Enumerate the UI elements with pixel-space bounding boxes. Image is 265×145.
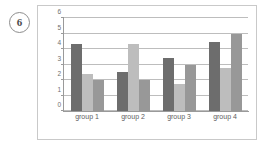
chart-canvas: 0123456 group 1group 2group 3group 4	[38, 6, 256, 139]
y-tick-label: 3	[57, 54, 61, 61]
y-tick-label: 2	[57, 70, 61, 77]
bar	[117, 72, 128, 111]
x-axis-label: group 4	[204, 113, 246, 120]
chart-frame: 0123456 group 1group 2group 3group 4	[37, 5, 257, 140]
plot-area: 0123456	[64, 18, 248, 111]
y-tick-label: 6	[57, 8, 61, 15]
y-tick-label: 0	[57, 101, 61, 108]
bar	[82, 74, 93, 111]
bar	[231, 34, 242, 112]
bar-series-layer	[64, 18, 248, 111]
x-axis-label: group 1	[66, 113, 108, 120]
bar	[174, 84, 185, 111]
figure-page: 6 0123456 group 1group 2group 3group 4	[0, 0, 265, 145]
bar-group	[117, 18, 150, 111]
x-axis-label: group 3	[158, 113, 200, 120]
bar	[93, 80, 104, 111]
bar	[71, 44, 82, 111]
y-tick-label: 4	[57, 39, 61, 46]
x-axis-line	[63, 111, 249, 112]
bar-group	[209, 18, 242, 111]
bar	[209, 42, 220, 111]
bar-group	[163, 18, 196, 111]
bar	[220, 68, 231, 111]
bar	[128, 44, 139, 111]
bar-group	[71, 18, 104, 111]
bar	[139, 80, 150, 111]
bar	[185, 65, 196, 112]
x-axis-label: group 2	[112, 113, 154, 120]
x-axis-labels: group 1group 2group 3group 4	[64, 113, 248, 120]
figure-number-badge: 6	[9, 12, 30, 33]
bar	[163, 58, 174, 111]
y-tick-label: 1	[57, 85, 61, 92]
y-tick-label: 5	[57, 23, 61, 30]
